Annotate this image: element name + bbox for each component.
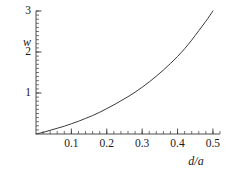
y-axis-title: w bbox=[23, 36, 31, 48]
x-tick-label: 0.1 bbox=[64, 138, 78, 150]
data-curve-series-1 bbox=[36, 11, 213, 134]
plot-canvas bbox=[0, 0, 238, 174]
y-tick-label: 3 bbox=[25, 5, 31, 17]
x-axis-title: d/a bbox=[188, 155, 203, 167]
x-tick-label: 0.3 bbox=[135, 138, 149, 150]
x-tick-marks bbox=[43, 129, 220, 135]
y-tick-marks bbox=[36, 11, 42, 130]
x-tick-label: 0.5 bbox=[206, 138, 220, 150]
x-tick-label: 0.4 bbox=[170, 138, 184, 150]
chart-figure: 123 0.10.20.30.40.5 w d/a bbox=[0, 0, 238, 174]
y-tick-label: 1 bbox=[25, 87, 31, 99]
x-tick-label: 0.2 bbox=[100, 138, 114, 150]
axis-lines bbox=[36, 11, 220, 134]
